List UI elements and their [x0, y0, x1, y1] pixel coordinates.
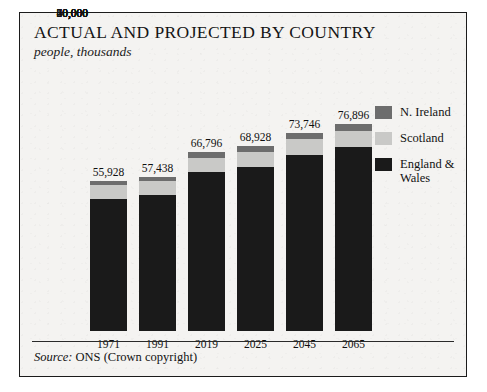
- bar-group[interactable]: 76,8962065: [335, 13, 372, 378]
- bar-segment-england-wales[interactable]: [286, 155, 323, 331]
- bar-group[interactable]: 68,9282025: [237, 13, 274, 378]
- bar-series-container: 55,928197157,438199166,796201968,9282025…: [90, 13, 390, 378]
- legend-item[interactable]: England & Wales: [375, 157, 467, 185]
- source-note: Source: ONS (Crown copyright): [34, 350, 197, 365]
- legend-item[interactable]: Scotland: [375, 131, 467, 145]
- stacked-bar[interactable]: [335, 124, 372, 331]
- bar-group[interactable]: 57,4381991: [139, 13, 176, 378]
- footer-divider: [32, 341, 454, 342]
- stacked-bar[interactable]: [286, 133, 323, 331]
- stacked-bar[interactable]: [237, 146, 274, 331]
- y-axis-labels: 80,00070,00060,00050,00040,00030,00020,0…: [26, 13, 88, 378]
- bar-segment-scotland[interactable]: [335, 131, 372, 147]
- bar-segment-scotland[interactable]: [139, 181, 176, 195]
- bar-segment-scotland[interactable]: [90, 185, 127, 199]
- bar-value-label: 57,438: [123, 162, 193, 174]
- source-text: ONS (Crown copyright): [76, 350, 198, 364]
- legend-item[interactable]: N. Ireland: [375, 105, 467, 119]
- source-label: Source:: [34, 350, 72, 364]
- x-axis-tick-label: 2025: [228, 338, 284, 350]
- bar-group[interactable]: 55,9281971: [90, 13, 127, 378]
- bar-segment-england-wales[interactable]: [139, 195, 176, 331]
- chart-figure: ACTUAL AND PROJECTED BY COUNTRY people, …: [19, 12, 467, 377]
- x-axis-tick-label: 2045: [277, 338, 333, 350]
- bar-segment-scotland[interactable]: [286, 139, 323, 154]
- stacked-bar[interactable]: [139, 177, 176, 331]
- x-axis-tick-label: 1971: [81, 338, 137, 350]
- chart-legend: N. IrelandScotlandEngland & Wales: [375, 105, 467, 197]
- stacked-bar[interactable]: [90, 181, 127, 331]
- bar-segment-scotland[interactable]: [237, 152, 274, 167]
- x-axis-tick-label: 1991: [130, 338, 186, 350]
- legend-label: N. Ireland: [400, 105, 451, 119]
- x-axis-tick-label: 2065: [326, 338, 382, 350]
- bar-value-label: 68,928: [221, 131, 291, 143]
- stacked-bar[interactable]: [188, 152, 225, 331]
- y-axis-tick-label: 0: [28, 7, 88, 19]
- legend-label: England & Wales: [400, 157, 467, 185]
- bar-segment-n-ireland[interactable]: [335, 124, 372, 131]
- legend-swatch-icon: [375, 158, 392, 171]
- bar-segment-scotland[interactable]: [188, 158, 225, 173]
- bar-segment-england-wales[interactable]: [237, 167, 274, 331]
- x-axis-tick-label: 2019: [179, 338, 235, 350]
- bar-group[interactable]: 66,7962019: [188, 13, 225, 378]
- legend-swatch-icon: [375, 132, 392, 145]
- bar-segment-england-wales[interactable]: [188, 172, 225, 331]
- bar-group[interactable]: 73,7462045: [286, 13, 323, 378]
- bar-segment-england-wales[interactable]: [90, 199, 127, 331]
- bar-segment-england-wales[interactable]: [335, 147, 372, 331]
- legend-label: Scotland: [400, 131, 444, 145]
- legend-swatch-icon: [375, 106, 392, 119]
